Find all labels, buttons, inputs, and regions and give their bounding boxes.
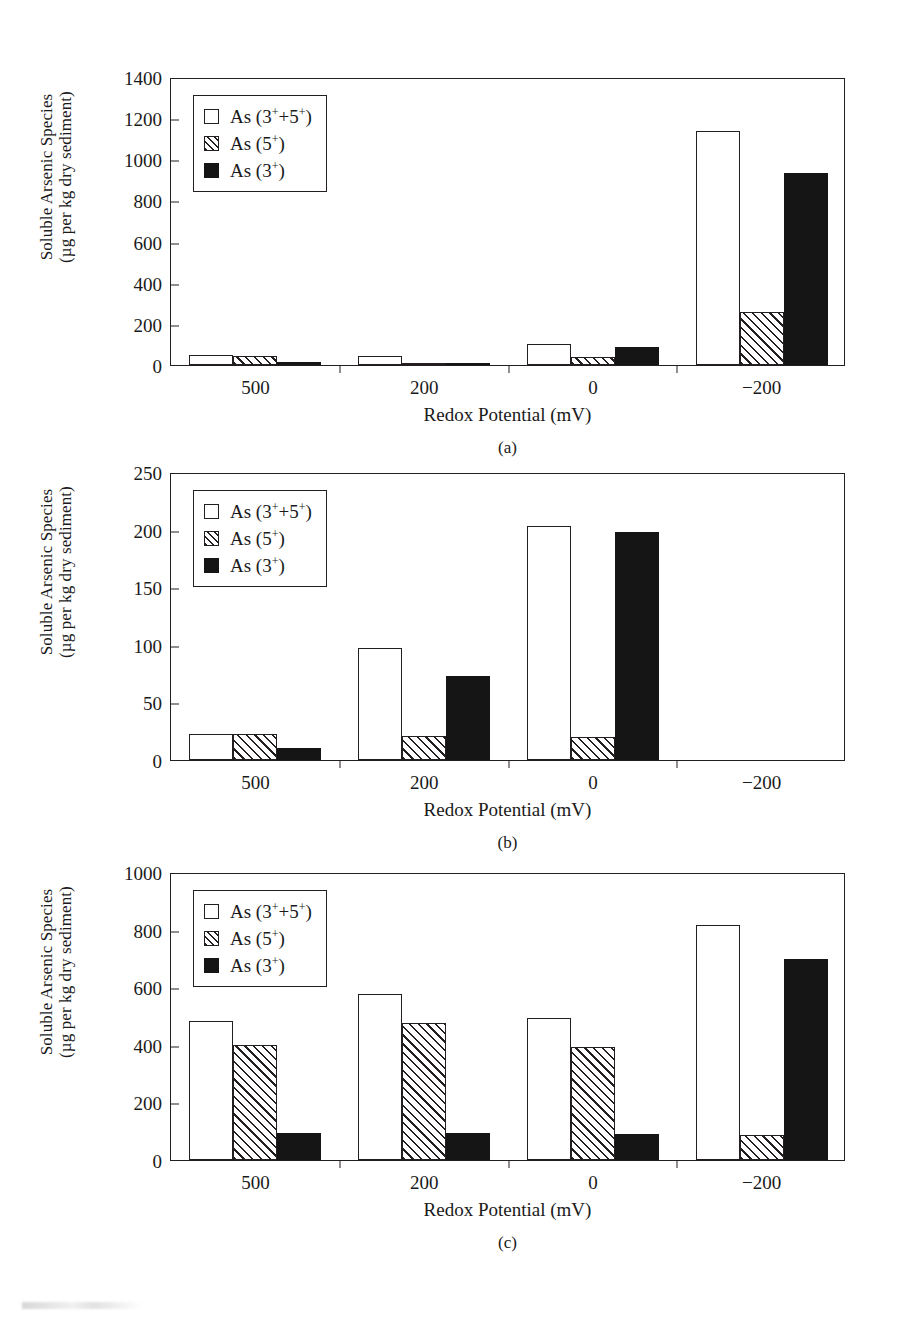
legend-item-label: As (3+): [230, 160, 285, 180]
legend-swatch-open-icon: [204, 504, 219, 519]
bar-a-neg200-s3: [784, 173, 828, 365]
bar-a-200-s2: [402, 363, 446, 365]
y-tick-label: 400: [134, 274, 172, 296]
chart-panel-b: Soluble Arsenic Species(µg per kg dry se…: [0, 455, 912, 855]
legend-item-label: As (5+): [230, 133, 285, 153]
x-tick-mark: [508, 365, 509, 373]
bar-b-0-s2: [571, 737, 615, 760]
y-axis-title: Soluble Arsenic Species(µg per kg dry se…: [37, 422, 71, 722]
y-tick-label: 1400: [124, 68, 171, 90]
page-edge-artifact: [22, 1302, 142, 1309]
y-tick-label: 250: [134, 463, 172, 485]
legend-swatch-hatch-icon: [204, 136, 219, 151]
x-tick-label: 200: [410, 1172, 439, 1194]
legend-swatch-hatch-icon: [204, 931, 219, 946]
legend-item-label: As (3+): [230, 555, 285, 575]
panel-subcaption: (c): [170, 1233, 845, 1253]
y-tick-mark: [171, 1104, 179, 1105]
y-axis-title-line1: Soluble Arsenic Species: [37, 422, 56, 722]
y-tick-mark: [171, 589, 179, 590]
legend-item-as5: As (5+): [204, 525, 312, 552]
bar-b-0-s3: [615, 532, 659, 760]
bar-c-neg200-s2: [740, 1135, 784, 1160]
axes-frame: 0501001502002505002000−200As (3++5+)As (…: [170, 473, 845, 761]
y-tick-label: 600: [134, 233, 172, 255]
y-tick-label: 0: [153, 751, 172, 773]
y-tick-mark: [171, 989, 179, 990]
x-tick-mark: [339, 365, 340, 373]
plot-area-a: Soluble Arsenic Species(µg per kg dry se…: [0, 60, 912, 405]
y-axis-title-line1: Soluble Arsenic Species: [37, 822, 56, 1122]
bar-a-neg200-s1: [696, 131, 740, 366]
x-tick-mark: [339, 760, 340, 768]
bar-c-200-s1: [358, 994, 402, 1160]
bar-b-200-s1: [358, 648, 402, 760]
bar-b-500-s3: [277, 748, 321, 760]
bar-c-0-s1: [527, 1018, 571, 1160]
bar-a-500-s3: [277, 362, 321, 365]
y-tick-label: 800: [134, 191, 172, 213]
bar-a-500-s1: [189, 355, 233, 365]
legend-item-label: As (5+): [230, 928, 285, 948]
bar-a-0-s1: [527, 344, 571, 365]
legend-swatch-hatch-icon: [204, 531, 219, 546]
chart-panel-c: Soluble Arsenic Species(µg per kg dry se…: [0, 855, 912, 1255]
y-tick-label: 200: [134, 315, 172, 337]
figure-arsenic-speciation: Soluble Arsenic Species(µg per kg dry se…: [0, 0, 912, 1317]
bar-a-500-s2: [233, 356, 277, 365]
y-axis-title-line1: Soluble Arsenic Species: [37, 27, 56, 327]
y-tick-label: 800: [134, 921, 172, 943]
x-tick-label: 500: [241, 377, 270, 399]
legend-swatch-solid-icon: [204, 163, 219, 178]
legend-item-as5: As (5+): [204, 130, 312, 157]
plot-area-b: Soluble Arsenic Species(µg per kg dry se…: [0, 455, 912, 800]
plot-area-c: Soluble Arsenic Species(µg per kg dry se…: [0, 855, 912, 1200]
bar-c-200-s3: [446, 1133, 490, 1160]
legend-swatch-solid-icon: [204, 958, 219, 973]
x-tick-mark: [339, 1160, 340, 1168]
y-tick-label: 200: [134, 521, 172, 543]
bar-a-200-s3: [446, 363, 490, 365]
y-tick-label: 0: [153, 1151, 172, 1173]
bar-c-200-s2: [402, 1023, 446, 1160]
bar-a-200-s1: [358, 356, 402, 365]
y-tick-mark: [171, 531, 179, 532]
y-tick-label: 1000: [124, 150, 171, 172]
bar-a-0-s2: [571, 357, 615, 365]
bar-b-500-s2: [233, 734, 277, 760]
y-axis-title: Soluble Arsenic Species(µg per kg dry se…: [37, 822, 71, 1122]
axes-frame: 02004006008001000120014005002000−200As (…: [170, 78, 845, 366]
x-tick-label: 200: [410, 377, 439, 399]
legend-swatch-solid-icon: [204, 558, 219, 573]
x-tick-label: 500: [241, 772, 270, 794]
y-tick-label: 200: [134, 1093, 172, 1115]
bar-b-500-s1: [189, 734, 233, 760]
y-tick-label: 600: [134, 978, 172, 1000]
y-tick-mark: [171, 120, 179, 121]
legend-item-label: As (3++5+): [230, 901, 312, 921]
x-tick-label: −200: [742, 772, 781, 794]
legend-item-as5: As (5+): [204, 925, 312, 952]
y-tick-mark: [171, 202, 179, 203]
chart-legend: As (3++5+)As (5+)As (3+): [193, 490, 327, 587]
x-tick-mark: [677, 760, 678, 768]
x-tick-label: −200: [742, 377, 781, 399]
panel-subcaption: (b): [170, 833, 845, 853]
y-tick-mark: [171, 243, 179, 244]
legend-item-label: As (3+): [230, 955, 285, 975]
x-tick-label: 0: [588, 377, 598, 399]
legend-item-as3: As (3+): [204, 552, 312, 579]
legend-item-total: As (3++5+): [204, 103, 312, 130]
y-tick-label: 150: [134, 578, 172, 600]
bar-c-500-s1: [189, 1021, 233, 1160]
y-tick-mark: [171, 284, 179, 285]
chart-panel-a: Soluble Arsenic Species(µg per kg dry se…: [0, 60, 912, 460]
y-tick-label: 0: [153, 356, 172, 378]
bar-b-200-s2: [402, 736, 446, 760]
x-axis-title: Redox Potential (mV): [170, 799, 845, 821]
bar-a-0-s3: [615, 347, 659, 366]
legend-item-as3: As (3+): [204, 952, 312, 979]
y-tick-mark: [171, 1046, 179, 1047]
legend-swatch-open-icon: [204, 109, 219, 124]
y-tick-label: 1000: [124, 863, 171, 885]
